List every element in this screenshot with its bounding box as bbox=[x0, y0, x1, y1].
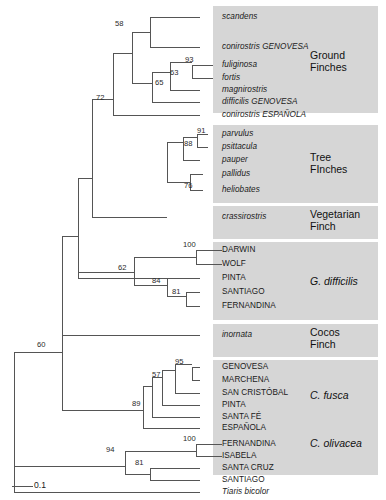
tip-label-santiago-difficilis: SANTIAGO bbox=[222, 288, 265, 296]
boot-81-olivacea: 81 bbox=[135, 459, 143, 467]
tip-label-conirostris-genovesa: conirostris GENOVESA bbox=[222, 43, 309, 51]
group-label-vegetarian-finch: VegetarianFinch bbox=[310, 209, 360, 232]
group-label-line: Finch bbox=[310, 221, 360, 233]
tip-label-espanola-fusca: ESPAÑOLA bbox=[222, 424, 266, 432]
boot-88: 88 bbox=[184, 140, 192, 148]
tip-label-isabela-olivacea: ISABELA bbox=[222, 452, 256, 460]
boot-94: 94 bbox=[106, 446, 114, 454]
group-label-line: C. olivacea bbox=[310, 438, 362, 450]
tip-label-crassirostris: crassirostris bbox=[222, 213, 266, 221]
tip-label-darwin: DARWIN bbox=[222, 246, 255, 254]
tip-label-scandens: scandens bbox=[222, 13, 257, 21]
tip-label-fortis: fortis bbox=[222, 74, 240, 82]
tip-label-heliobates: heliobates bbox=[222, 186, 260, 194]
tip-label-pallidus: pallidus bbox=[222, 170, 250, 178]
tip-label-fernandina-olivacea: FERNANDINA bbox=[222, 440, 276, 448]
tip-label-difficilis-genovesa: difficilis GENOVESA bbox=[222, 98, 298, 106]
group-label-line: C. fusca bbox=[310, 390, 349, 402]
tip-label-san-cristobal-fusca: SAN CRISTÓBAL bbox=[222, 389, 288, 397]
tip-label-fuliginosa: fuliginosa bbox=[222, 61, 257, 69]
tip-label-pauper: pauper bbox=[222, 156, 248, 164]
boot-72: 72 bbox=[96, 94, 104, 102]
tip-label-psittacula: psittacula bbox=[222, 143, 257, 151]
group-label-line: FInches bbox=[310, 164, 347, 176]
boot-91: 91 bbox=[197, 127, 205, 135]
group-label-line: Ground bbox=[310, 50, 347, 62]
group-label-ground-finches: GroundFinches bbox=[310, 50, 347, 73]
group-label-tree-finches: TreeFInches bbox=[310, 152, 347, 175]
tip-label-pinta-difficilis: PINTA bbox=[222, 274, 246, 282]
tip-label-genovesa-fusca: GENOVESA bbox=[222, 363, 268, 371]
group-label-line: Vegetarian bbox=[310, 209, 360, 221]
boot-76: 76 bbox=[184, 182, 192, 190]
phylogenetic-tree-figure: scandensconirostris GENOVESAfuliginosafo… bbox=[0, 0, 386, 500]
boot-58: 58 bbox=[115, 20, 123, 28]
boot-93: 93 bbox=[185, 56, 193, 64]
tip-label-conirostris-espanola: conirostris ESPAÑOLA bbox=[222, 111, 306, 119]
boot-62: 62 bbox=[118, 264, 126, 272]
boot-95: 95 bbox=[175, 358, 183, 366]
group-label-cocos-finch: CocosFinch bbox=[310, 327, 340, 350]
tree-branches bbox=[0, 0, 386, 500]
tip-label-santiago-olivacea: SANTIAGO bbox=[222, 476, 265, 484]
group-label-line: Cocos bbox=[310, 327, 340, 339]
tip-label-marchena-fusca: MARCHENA bbox=[222, 376, 269, 384]
boot-60: 60 bbox=[37, 341, 45, 349]
scale-bar-label: 0.1 bbox=[34, 481, 46, 490]
boot-100-difficilis: 100 bbox=[183, 241, 196, 249]
group-label-g-difficilis: G. difficilis bbox=[310, 276, 358, 288]
boot-65: 65 bbox=[155, 79, 163, 87]
boot-57: 57 bbox=[152, 371, 160, 379]
tip-label-wolf: WOLF bbox=[222, 260, 246, 268]
tip-label-pinta-fusca: PINTA bbox=[222, 401, 246, 409]
tip-label-tiaris-bicolor: Tiaris bicolor bbox=[222, 488, 269, 496]
boot-89: 89 bbox=[132, 400, 140, 408]
group-label-line: Finches bbox=[310, 62, 347, 74]
group-label-line: G. difficilis bbox=[310, 276, 358, 288]
boot-100-olivacea: 100 bbox=[183, 435, 196, 443]
boot-84: 84 bbox=[152, 277, 160, 285]
tip-label-santa-fe-fusca: SANTA FÉ bbox=[222, 413, 261, 421]
tip-label-fernandina-difficilis: FERNANDINA bbox=[222, 302, 276, 310]
boot-81-difficilis: 81 bbox=[172, 288, 180, 296]
tip-label-parvulus: parvulus bbox=[222, 130, 253, 138]
group-label-line: Tree bbox=[310, 152, 347, 164]
boot-63: 63 bbox=[170, 69, 178, 77]
group-label-c-fusca: C. fusca bbox=[310, 390, 349, 402]
group-label-c-olivacea: C. olivacea bbox=[310, 438, 362, 450]
tip-label-inornata: inornata bbox=[222, 331, 252, 339]
tip-label-magnirostris: magnirostris bbox=[222, 86, 267, 94]
group-label-line: Finch bbox=[310, 339, 340, 351]
tip-label-santa-cruz-olivacea: SANTA CRUZ bbox=[222, 464, 274, 472]
